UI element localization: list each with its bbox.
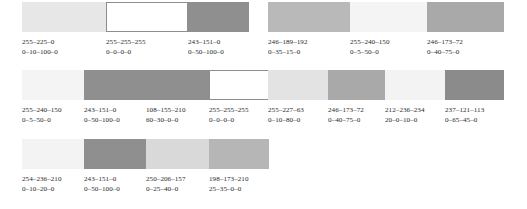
swatch-strip (268, 2, 504, 32)
color-swatch[interactable] (106, 2, 188, 32)
rgb-value: 246–173–72 (427, 38, 504, 48)
swatch-label: 246–173–72 0–40–75–0 (328, 106, 385, 125)
cmyk-value: 60–30–0–0 (146, 116, 209, 126)
cmyk-value: 0–25–40–0 (146, 185, 209, 195)
swatch-label: 243–151–0 0–50–100–0 (84, 175, 146, 194)
cmyk-value: 0–50–100–0 (188, 48, 249, 58)
swatch-strip (22, 70, 269, 100)
rgb-value: 255–227–63 (268, 106, 328, 116)
swatch-label: 243–151–0 0–50–100–0 (188, 38, 249, 57)
swatch-group-row1-right: 246–189–192 0–35–15–0 255–240–150 0–5–50… (268, 2, 504, 71)
cmyk-value: 0–65–45–0 (445, 116, 504, 126)
color-swatch[interactable] (268, 2, 350, 32)
cmyk-value: 20–0–10–0 (385, 116, 445, 126)
swatch-label: 255–255–255 0–0–0–0 (209, 106, 269, 125)
color-swatch[interactable] (84, 139, 146, 169)
rgb-value: 212–236–234 (385, 106, 445, 116)
color-swatch[interactable] (209, 70, 269, 100)
color-swatch[interactable] (22, 139, 84, 169)
swatch-label-strip: 246–189–192 0–35–15–0 255–240–150 0–5–50… (268, 38, 504, 57)
swatch-label: 246–189–192 0–35–15–0 (268, 38, 350, 57)
rgb-value: 243–151–0 (84, 106, 146, 116)
swatch-label: 255–255–255 0–0–0–0 (106, 38, 188, 57)
rgb-value: 255–255–255 (106, 38, 188, 48)
swatch-group-row3-left: 254–236–210 0–10–20–0 243–151–0 0–50–100… (22, 139, 269, 208)
swatch-label-strip: 254–236–210 0–10–20–0 243–151–0 0–50–100… (22, 175, 269, 194)
rgb-value: 254–236–210 (22, 175, 84, 185)
swatch-strip (22, 139, 269, 169)
color-swatch[interactable] (328, 70, 385, 100)
rgb-value: 246–189–192 (268, 38, 350, 48)
rgb-value: 237–121–113 (445, 106, 504, 116)
color-swatch[interactable] (22, 70, 84, 100)
rgb-value: 108–155–210 (146, 106, 209, 116)
swatch-label: 255–240–150 0–5–50–0 (22, 106, 84, 125)
rgb-value: 255–225–0 (22, 38, 106, 48)
swatch-label: 255–240–150 0–5–50–0 (350, 38, 427, 57)
swatch-strip (268, 70, 504, 100)
cmyk-value: 0–10–100–0 (22, 48, 106, 58)
swatch-label: 237–121–113 0–65–45–0 (445, 106, 504, 125)
swatch-label-strip: 255–227–63 0–10–80–0 246–173–72 0–40–75–… (268, 106, 504, 125)
cmyk-value: 0–40–75–0 (328, 116, 385, 126)
swatch-label: 212–236–234 20–0–10–0 (385, 106, 445, 125)
swatch-label: 246–173–72 0–40–75–0 (427, 38, 504, 57)
swatch-strip (22, 2, 249, 32)
color-palette-sheet: 255–225–0 0–10–100–0 255–255–255 0–0–0–0… (0, 0, 527, 209)
rgb-value: 198–173–210 (209, 175, 269, 185)
rgb-value: 255–255–255 (209, 106, 269, 116)
rgb-value: 250–206–157 (146, 175, 209, 185)
swatch-label: 255–227–63 0–10–80–0 (268, 106, 328, 125)
swatch-label-strip: 255–225–0 0–10–100–0 255–255–255 0–0–0–0… (22, 38, 249, 57)
color-swatch[interactable] (209, 139, 269, 169)
cmyk-value: 0–0–0–0 (106, 48, 188, 58)
color-swatch[interactable] (146, 70, 209, 100)
cmyk-value: 0–50–100–0 (84, 185, 146, 195)
rgb-value: 246–173–72 (328, 106, 385, 116)
rgb-value: 243–151–0 (84, 175, 146, 185)
swatch-label-strip: 255–240–150 0–5–50–0 243–151–0 0–50–100–… (22, 106, 269, 125)
swatch-label: 108–155–210 60–30–0–0 (146, 106, 209, 125)
color-swatch[interactable] (385, 70, 445, 100)
color-swatch[interactable] (22, 2, 106, 32)
rgb-value: 255–240–150 (22, 106, 84, 116)
palette-row-1: 255–225–0 0–10–100–0 255–255–255 0–0–0–0… (0, 2, 527, 71)
swatch-group-row1-left: 255–225–0 0–10–100–0 255–255–255 0–0–0–0… (22, 2, 249, 71)
cmyk-value: 0–50–100–0 (84, 116, 146, 126)
color-swatch[interactable] (146, 139, 209, 169)
color-swatch[interactable] (445, 70, 504, 100)
cmyk-value: 0–0–0–0 (209, 116, 269, 126)
color-swatch[interactable] (268, 70, 328, 100)
swatch-label: 250–206–157 0–25–40–0 (146, 175, 209, 194)
cmyk-value: 0–10–20–0 (22, 185, 84, 195)
rgb-value: 255–240–150 (350, 38, 427, 48)
cmyk-value: 0–35–15–0 (268, 48, 350, 58)
swatch-label: 243–151–0 0–50–100–0 (84, 106, 146, 125)
color-swatch[interactable] (350, 2, 427, 32)
color-swatch[interactable] (188, 2, 249, 32)
cmyk-value: 0–5–50–0 (350, 48, 427, 58)
rgb-value: 243–151–0 (188, 38, 249, 48)
cmyk-value: 0–40–75–0 (427, 48, 504, 58)
cmyk-value: 0–10–80–0 (268, 116, 328, 126)
swatch-group-row2-left: 255–240–150 0–5–50–0 243–151–0 0–50–100–… (22, 70, 269, 139)
palette-row-2: 255–240–150 0–5–50–0 243–151–0 0–50–100–… (0, 70, 527, 139)
color-swatch[interactable] (427, 2, 504, 32)
cmyk-value: 25–35–0–0 (209, 185, 269, 195)
swatch-label: 255–225–0 0–10–100–0 (22, 38, 106, 57)
swatch-label: 254–236–210 0–10–20–0 (22, 175, 84, 194)
color-swatch[interactable] (84, 70, 146, 100)
palette-row-3: 254–236–210 0–10–20–0 243–151–0 0–50–100… (0, 139, 527, 208)
swatch-label: 198–173–210 25–35–0–0 (209, 175, 269, 194)
swatch-group-row2-right: 255–227–63 0–10–80–0 246–173–72 0–40–75–… (268, 70, 504, 139)
cmyk-value: 0–5–50–0 (22, 116, 84, 126)
